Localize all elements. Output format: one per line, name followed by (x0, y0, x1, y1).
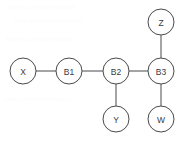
node-b2[interactable]: B2 (103, 58, 129, 84)
node-z[interactable]: Z (148, 9, 174, 35)
node-x-label: X (20, 67, 26, 77)
graph-diagram: X B1 B2 B3 Z Y (0, 0, 187, 142)
node-b1[interactable]: B1 (56, 58, 82, 84)
node-b2-label: B2 (111, 67, 122, 77)
node-z-label: Z (158, 18, 163, 28)
node-w-label: W (157, 115, 165, 125)
node-y-label: Y (113, 115, 119, 125)
node-b3-label: B3 (156, 67, 167, 77)
edge-group (36, 35, 161, 106)
node-x[interactable]: X (10, 58, 36, 84)
node-y[interactable]: Y (103, 106, 129, 132)
node-w[interactable]: W (148, 106, 174, 132)
node-b1-label: B1 (64, 67, 75, 77)
figure-canvas: faint scan bleed-through faint scan blee… (0, 0, 187, 142)
node-b3[interactable]: B3 (148, 58, 174, 84)
